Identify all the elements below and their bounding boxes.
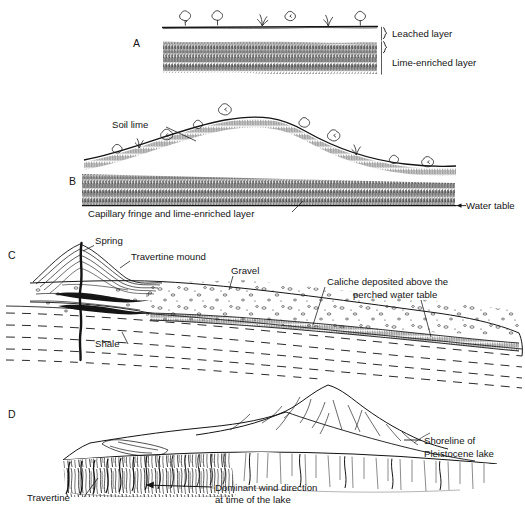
shrub-icon [219,104,232,115]
caliche-label-line1: Caliche deposited above the [327,276,448,287]
panel-a-brace-markers [382,27,387,75]
panel-d-terrace-top [90,412,286,443]
panel-b: B Soil lime Ca [69,104,515,219]
soil-lime-label: Soil lime [112,119,148,130]
grass-tuft-icon [352,145,361,155]
panel-b-letter: B [69,175,76,187]
travertine-mound-label: Travertine mound [131,251,206,262]
panel-a-lime-band [163,42,377,75]
panel-a-vegetation [180,11,366,26]
travertine-mound-leader [120,261,130,268]
wind-direction-label-line2: at time of the lake [215,494,291,505]
caliche-label-line2: perched water table [353,289,437,300]
gravel-label: Gravel [231,265,259,276]
panel-d-terrace-left [63,443,90,460]
shrub-icon [355,11,365,25]
shale-label: Shale [95,338,120,349]
panel-d-embayment [102,440,168,456]
shrub-icon [212,11,223,26]
brace-lime-icon [383,42,387,53]
capillary-fringe-label: Capillary fringe and lime-enriched layer [88,208,255,219]
panel-c-letter: C [8,249,16,261]
panel-c: C [6,235,525,388]
panel-d: D [8,385,497,505]
brace-leached-icon [383,28,387,39]
panel-d-butte [196,385,448,449]
panel-c-gravel-terminus [519,333,522,356]
lime-enriched-layer-label: Lime-enriched layer [392,57,477,68]
spring-label: Spring [95,235,123,246]
panel-a-ground-line [162,27,378,28]
travertine-label: Travertine [27,492,70,503]
panel-b-vegetation [112,104,433,167]
wind-direction-label-line1: Dominant wind direction [215,482,317,493]
water-table-label: Water table [466,200,515,211]
panel-d-letter: D [8,408,16,420]
shrub-icon [180,11,191,26]
panel-a: A Leached layer Lime-enriched layer [133,11,477,75]
water-table-arrow [456,203,466,207]
shrub-icon [299,118,310,128]
shrub-icon [327,130,339,141]
shoreline-label-line2: Pleistocene lake [424,448,494,459]
shrub-icon [193,120,202,128]
shoreline-label-line1: Shoreline of [424,435,476,446]
caliche-travertine-figure: A Leached layer Lime-enriched layer B [0,0,525,510]
panel-a-letter: A [133,37,140,49]
shrub-icon [285,11,295,20]
leached-layer-label: Leached layer [392,28,453,39]
spring-conduit [80,243,82,360]
grass-tuft-icon [257,14,268,25]
panel-b-capillary-fringe [80,172,460,208]
grass-tuft-icon [323,15,332,26]
